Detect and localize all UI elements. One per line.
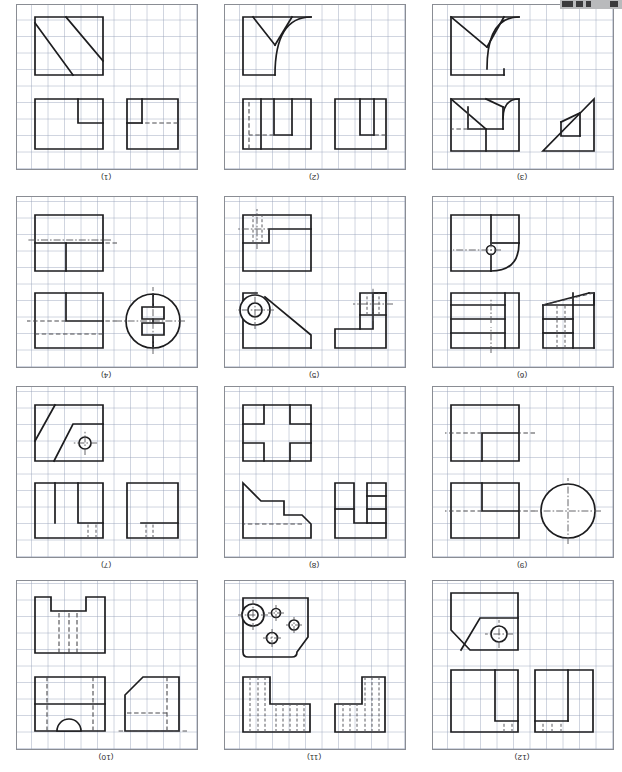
panel-12-frame	[432, 580, 614, 750]
panel-9-label: (9)	[430, 561, 614, 570]
scan-artifact-mark-4	[610, 1, 618, 7]
scan-artifact-mark-2	[576, 1, 583, 7]
panel-3-label: (3)	[430, 173, 614, 182]
scan-header-artifact	[560, 0, 622, 9]
panel-1-label: (1)	[14, 173, 198, 182]
panel-1-views	[17, 5, 197, 169]
panel-2-views	[225, 5, 405, 169]
panel-2-label: (2)	[222, 173, 406, 182]
panel-8-label: (8)	[222, 561, 406, 570]
panel-1[interactable]: (1)	[14, 0, 198, 184]
panel-10-label: (10)	[14, 753, 198, 762]
panel-7-views	[17, 387, 197, 557]
panel-6-frame	[432, 196, 614, 368]
panel-3-views	[433, 5, 613, 169]
panel-7[interactable]: (7)	[14, 382, 198, 572]
panel-4-label: (4)	[14, 371, 198, 380]
panel-4[interactable]: (4)	[14, 192, 198, 382]
panel-1-frame	[16, 4, 198, 170]
panel-12[interactable]: (12)	[430, 580, 614, 764]
panel-7-label: (7)	[14, 561, 198, 570]
panel-5-views	[225, 197, 405, 367]
panel-10[interactable]: (10)	[14, 580, 198, 764]
panel-10-frame	[16, 580, 198, 750]
panel-8-views	[225, 387, 405, 557]
panel-7-frame	[16, 386, 198, 558]
panel-3[interactable]: (3)	[430, 0, 614, 184]
panel-9-frame	[432, 386, 614, 558]
panel-11-label: (11)	[222, 753, 406, 762]
panel-9[interactable]: (9)	[430, 382, 614, 572]
scan-artifact-mark-3	[586, 1, 591, 7]
panel-5-frame	[224, 196, 406, 368]
panel-4-views	[17, 197, 197, 367]
panel-4-frame	[16, 196, 198, 368]
panel-8[interactable]: (8)	[222, 382, 406, 572]
panel-2-frame	[224, 4, 406, 170]
panel-2[interactable]: (2)	[222, 0, 406, 184]
panel-11[interactable]: (11)	[222, 580, 406, 764]
panel-11-frame	[224, 580, 406, 750]
panel-9-views	[433, 387, 613, 557]
panel-10-views	[17, 581, 197, 749]
scan-artifact-mark-1	[562, 1, 573, 7]
worksheet-sheet: (12)	[0, 0, 622, 772]
panel-6-views	[433, 197, 613, 367]
panel-6-label: (6)	[430, 371, 614, 380]
panel-3-frame	[432, 4, 614, 170]
panel-5[interactable]: (5)	[222, 192, 406, 382]
panel-6[interactable]: (6)	[430, 192, 614, 382]
panel-11-views	[225, 581, 405, 749]
panel-12-label: (12)	[430, 753, 614, 762]
panel-5-label: (5)	[222, 371, 406, 380]
panel-12-views	[433, 581, 613, 749]
panel-8-frame	[224, 386, 406, 558]
